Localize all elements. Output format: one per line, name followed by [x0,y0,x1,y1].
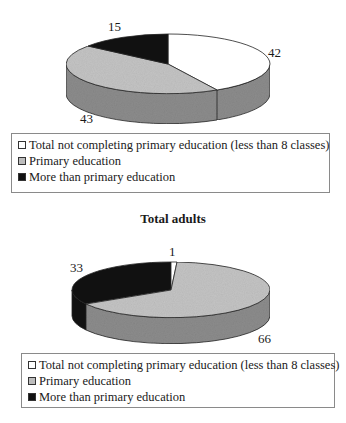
legend-item: More than primary education [18,169,323,185]
pie-chart-1 [66,34,270,124]
black-swatch-icon [18,173,26,181]
legend-item: Total not completing primary education (… [28,357,328,373]
legend-label: Total not completing primary education (… [39,357,339,373]
legend-label: Primary education [29,153,121,169]
pie-chart-2 [72,262,270,344]
legend-item: Primary education [18,153,323,169]
pie2-label-white: 1 [169,245,176,258]
pie1-label-grey: 43 [80,112,93,125]
legend-label: Primary education [39,373,131,389]
black-swatch-icon [28,393,36,401]
legend-label: More than primary education [29,169,175,185]
legend-label: Total not completing primary education (… [29,137,329,153]
pie2-label-grey: 66 [258,332,271,345]
pie2-legend: Total not completing primary education (… [21,353,335,408]
legend-item: Total not completing primary education (… [18,137,323,153]
grey-swatch-icon [18,157,26,165]
legend-item: Primary education [28,373,328,389]
white-swatch-icon [28,361,36,369]
chart-title: Total adults [0,211,346,227]
legend-label: More than primary education [39,389,185,405]
pie1-label-white: 42 [268,46,281,59]
white-swatch-icon [18,141,26,149]
pie2-label-black: 33 [70,261,83,274]
legend-item: More than primary education [28,389,328,405]
pie1-label-black: 15 [108,20,121,33]
grey-swatch-icon [28,377,36,385]
pie1-legend: Total not completing primary education (… [11,133,330,193]
